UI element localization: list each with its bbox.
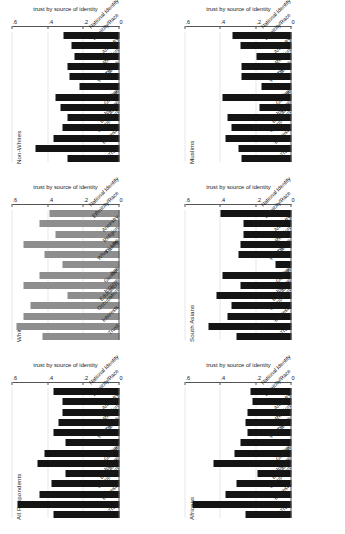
panel-whites: Whites0.2.4.6trust by source of identity… bbox=[0, 178, 173, 356]
y-axis-tick bbox=[47, 204, 48, 207]
y-axis-tick-label: 0 bbox=[291, 197, 294, 203]
panel-non-whites: Non-Whites0.2.4.6trust by source of iden… bbox=[0, 0, 173, 178]
panel-all-respondents: All Respondents0.2.4.6trust by source of… bbox=[0, 356, 173, 534]
bar bbox=[192, 501, 291, 508]
bar bbox=[220, 210, 291, 217]
panel-inner: Africans0.2.4.6trust by source of identi… bbox=[179, 358, 344, 532]
bar bbox=[65, 439, 118, 446]
y-axis-tick bbox=[255, 204, 256, 207]
y-axis-tick-label: .6 bbox=[185, 197, 190, 203]
y-axis-tick bbox=[184, 382, 185, 385]
y-axis-tick bbox=[11, 26, 12, 29]
y-axis-tick bbox=[82, 204, 83, 207]
y-axis-tick bbox=[219, 204, 220, 207]
y-axis-tick-label: .6 bbox=[185, 19, 190, 25]
y-axis-tick bbox=[82, 382, 83, 385]
y-axis-tick-label: .6 bbox=[12, 19, 17, 25]
y-axis-tick bbox=[82, 26, 83, 29]
panel-inner: All Respondents0.2.4.6trust by source of… bbox=[6, 358, 171, 532]
y-axis-tick bbox=[11, 204, 12, 207]
y-axis-tick bbox=[290, 382, 291, 385]
y-axis-title-text: trust by source of identity bbox=[206, 184, 270, 190]
bar bbox=[35, 145, 118, 152]
y-axis-tick bbox=[118, 26, 119, 29]
y-axis-tick bbox=[219, 26, 220, 29]
x-axis-labels: TrustInterestsOccupationEducationIncomeG… bbox=[291, 388, 343, 518]
y-axis-tick bbox=[118, 204, 119, 207]
y-axis-title-text: trust by source of identity bbox=[33, 6, 97, 12]
y-axis-tick bbox=[255, 26, 256, 29]
y-axis-tick-label: 0 bbox=[291, 375, 294, 381]
y-axis-title-text: trust by source of identity bbox=[33, 184, 97, 190]
panel-inner: Whites0.2.4.6trust by source of identity… bbox=[6, 180, 171, 354]
y-axis-tick-label: .4 bbox=[48, 375, 53, 381]
bar bbox=[42, 333, 118, 340]
y-axis-tick-label: 0 bbox=[119, 197, 122, 203]
bar bbox=[17, 501, 118, 508]
bar bbox=[62, 261, 119, 268]
panel-africans: Africans0.2.4.6trust by source of identi… bbox=[173, 356, 345, 534]
y-axis-title-text: trust by source of identity bbox=[206, 362, 270, 368]
y-axis-tick-label: .6 bbox=[12, 197, 17, 203]
bar bbox=[49, 210, 118, 217]
bar bbox=[53, 388, 119, 395]
y-axis-tick-label: .4 bbox=[220, 375, 225, 381]
y-axis-tick-label: .6 bbox=[12, 375, 17, 381]
y-axis-tick bbox=[255, 382, 256, 385]
bar bbox=[240, 439, 291, 446]
panel-grid: All Respondents0.2.4.6trust by source of… bbox=[0, 0, 345, 534]
y-axis-tick bbox=[219, 382, 220, 385]
bar bbox=[208, 323, 291, 330]
bar bbox=[238, 251, 291, 258]
y-axis-tick bbox=[184, 26, 185, 29]
y-axis-tick bbox=[184, 204, 185, 207]
y-axis-title-text: trust by source of identity bbox=[206, 6, 270, 12]
y-axis-tick-label: .4 bbox=[48, 19, 53, 25]
panel-inner: Non-Whites0.2.4.6trust by source of iden… bbox=[6, 2, 171, 176]
bar bbox=[51, 480, 118, 487]
y-axis-tick-label: 0 bbox=[291, 19, 294, 25]
x-axis-labels: TrustInterestsOccupationEducationIncomeG… bbox=[291, 210, 343, 340]
bar bbox=[69, 73, 119, 80]
y-axis-tick-label: .4 bbox=[220, 197, 225, 203]
y-axis-tick bbox=[47, 26, 48, 29]
panel-inner: South Asians0.2.4.6trust by source of id… bbox=[179, 180, 344, 354]
figure-canvas: All Respondents0.2.4.6trust by source of… bbox=[0, 0, 345, 534]
bar bbox=[16, 323, 119, 330]
y-axis-tick bbox=[47, 382, 48, 385]
panel-inner: Muslims0.2.4.6trust by source of identit… bbox=[179, 2, 344, 176]
y-axis-tick-label: .6 bbox=[185, 375, 190, 381]
panel-muslims: Muslims0.2.4.6trust by source of identit… bbox=[173, 0, 345, 178]
y-axis-tick-label: .4 bbox=[48, 197, 53, 203]
x-axis-labels: TrustInterestsOccupationEducationIncomeG… bbox=[119, 388, 171, 518]
y-axis-tick bbox=[11, 382, 12, 385]
panel-south-asians: South Asians0.2.4.6trust by source of id… bbox=[173, 178, 345, 356]
y-axis-tick-label: 0 bbox=[119, 375, 122, 381]
x-axis-labels: TrustInterestsOccupationEducationIncomeG… bbox=[119, 32, 171, 162]
y-axis-tick bbox=[290, 26, 291, 29]
y-axis-tick-label: 0 bbox=[119, 19, 122, 25]
x-axis-labels: TrustInterestsOccupationEducationIncomeG… bbox=[291, 32, 343, 162]
y-axis-tick bbox=[118, 382, 119, 385]
y-axis-tick-label: .4 bbox=[220, 19, 225, 25]
bar bbox=[241, 73, 291, 80]
x-axis-labels: TrustInterestsOccupationEducationIncomeG… bbox=[119, 210, 171, 340]
y-axis-title-text: trust by source of identity bbox=[33, 362, 97, 368]
y-axis-tick bbox=[290, 204, 291, 207]
